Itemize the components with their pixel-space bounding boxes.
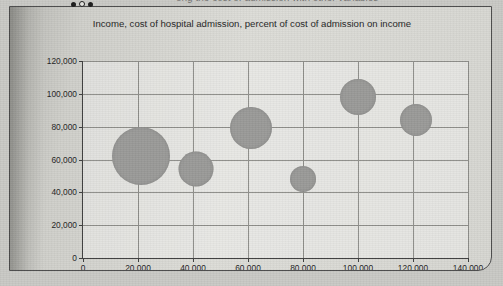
x-axis-label: 120,000 xyxy=(398,263,428,271)
plot-area: 020,00040,00060,00080,000100,000120,0000… xyxy=(82,61,468,259)
y-axis-tick xyxy=(79,94,83,95)
y-axis-tick xyxy=(79,127,83,128)
x-axis-tick xyxy=(358,258,359,262)
x-axis-label: 20,000 xyxy=(125,263,151,271)
y-axis-label: 80,000 xyxy=(51,122,77,132)
x-axis-tick xyxy=(138,258,139,262)
x-axis-label: 40,000 xyxy=(180,263,206,271)
y-axis-label: 40,000 xyxy=(51,187,77,197)
gridline-vertical xyxy=(413,61,414,258)
bubble-data-point xyxy=(290,166,316,192)
screenshot-root: ong the cost of admission with other var… xyxy=(0,0,503,286)
bubble-data-point xyxy=(112,127,170,185)
y-axis-label: 100,000 xyxy=(47,89,77,99)
gridline-horizontal xyxy=(83,61,468,62)
bubble-data-point xyxy=(340,79,376,115)
y-axis-tick xyxy=(79,192,83,193)
gridline-vertical xyxy=(303,61,304,258)
y-axis-label: 0 xyxy=(72,253,77,263)
binder-dots xyxy=(71,1,93,7)
x-axis-label: 100,000 xyxy=(343,263,373,271)
bubble-data-point xyxy=(178,152,213,187)
x-axis-label: 60,000 xyxy=(235,263,261,271)
bubble-data-point xyxy=(230,107,272,149)
x-axis-tick xyxy=(248,258,249,262)
gridline-horizontal xyxy=(83,225,468,226)
gridline-vertical xyxy=(248,61,249,258)
gridline-vertical xyxy=(468,61,469,258)
x-axis-tick xyxy=(413,258,414,262)
x-axis-label: 140,000 xyxy=(453,263,483,271)
y-axis-label: 120,000 xyxy=(47,56,77,66)
y-axis-tick xyxy=(79,160,83,161)
chart-title: Income, cost of hospital admission, perc… xyxy=(62,18,442,31)
y-axis-label: 60,000 xyxy=(51,155,77,165)
x-axis-tick xyxy=(468,258,469,262)
cut-off-caption: ong the cost of admission with other var… xyxy=(176,0,496,3)
gridline-horizontal xyxy=(83,94,468,95)
x-axis-tick xyxy=(83,258,84,262)
dot-filled-right-icon xyxy=(88,2,93,7)
x-axis-tick xyxy=(303,258,304,262)
gridline-horizontal xyxy=(83,192,468,193)
y-axis-label: 20,000 xyxy=(51,220,77,230)
x-axis-tick xyxy=(193,258,194,262)
bubble-data-point xyxy=(400,104,432,136)
y-axis-tick xyxy=(79,61,83,62)
y-axis-tick xyxy=(79,225,83,226)
x-axis-label: 0 xyxy=(81,263,86,271)
dot-filled-left-icon xyxy=(71,2,76,7)
figure-frame: Income, cost of hospital admission, perc… xyxy=(9,6,492,271)
dot-hollow-center-icon xyxy=(79,1,85,7)
x-axis-label: 80,000 xyxy=(290,263,316,271)
page-spine-shading xyxy=(10,7,44,270)
